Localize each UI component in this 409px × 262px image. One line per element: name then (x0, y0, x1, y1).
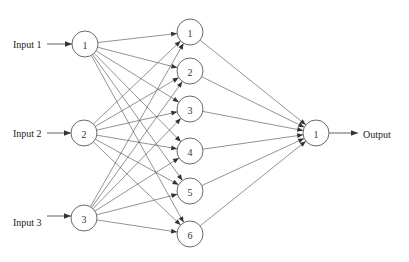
hidden-node-3: 3 (177, 96, 203, 122)
input-node-1: 1 (72, 31, 98, 57)
edge-hidden4-output1 (203, 135, 303, 149)
edge-input2-hidden5 (95, 139, 178, 185)
hidden-node-5: 5 (177, 178, 203, 204)
edge-input3-hidden5 (97, 194, 178, 215)
hidden-node-1: 1 (177, 19, 203, 45)
edge-input3-hidden4 (95, 158, 179, 211)
hidden-node-6: 6 (177, 221, 203, 247)
hidden-node-2: 2 (177, 58, 203, 84)
edge-hidden6-output1 (200, 141, 306, 226)
hidden-node-4: 4 (177, 138, 203, 164)
output-node-label: 1 (314, 129, 319, 140)
input-node-label: 1 (83, 40, 88, 51)
hidden-node-label: 4 (188, 147, 193, 158)
edge-input3-hidden6 (97, 220, 177, 232)
nodes: 1231234561 (71, 19, 329, 247)
output-node-1: 1 (303, 120, 329, 146)
hidden-node-label: 6 (188, 230, 193, 241)
hidden-node-label: 2 (188, 67, 193, 78)
edge-input1-hidden6 (91, 55, 183, 222)
input-label-2: Input 2 (13, 128, 42, 139)
edge-hidden1-output1 (200, 40, 306, 125)
hidden-node-label: 3 (188, 105, 193, 116)
edges-input-to-hidden (90, 33, 183, 232)
input-node-label: 3 (82, 214, 87, 225)
edge-hidden3-output1 (203, 111, 303, 130)
hidden-node-label: 5 (188, 187, 193, 198)
input-node-label: 2 (82, 129, 87, 140)
edge-hidden2-output1 (202, 77, 305, 128)
edge-input1-hidden5 (93, 55, 183, 181)
edge-input1-hidden1 (98, 33, 177, 42)
edge-input2-hidden3 (97, 112, 178, 130)
edge-input1-hidden4 (94, 53, 181, 141)
edge-hidden5-output1 (202, 138, 304, 185)
input-label-1: Input 1 (13, 39, 42, 50)
edge-input3-hidden1 (90, 43, 183, 206)
input-label-3: Input 3 (13, 217, 42, 228)
input-node-3: 3 (71, 205, 97, 231)
edge-input1-hidden2 (98, 47, 178, 68)
neural-network-diagram: 1231234561 Input 1Input 2Input 3Output (0, 0, 409, 262)
edge-input3-hidden3 (93, 118, 181, 208)
edges-hidden-to-output (200, 40, 306, 226)
hidden-node-label: 1 (188, 28, 193, 39)
input-node-2: 2 (71, 120, 97, 146)
output-label: Output (363, 129, 391, 140)
